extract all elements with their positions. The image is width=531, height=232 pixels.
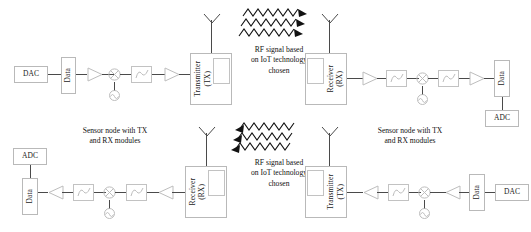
transmitter-label-line1: Transmitter xyxy=(194,61,202,97)
sensor-caption-line2: and RX modules xyxy=(55,136,175,146)
transmitter-label-line1: Transmitter xyxy=(327,174,335,210)
block-dac-top[interactable]: DAC xyxy=(14,66,48,83)
local-oscillator-2[interactable] xyxy=(416,93,429,106)
block-data-bottom-left[interactable]: Data xyxy=(22,178,38,215)
local-oscillator-3[interactable] xyxy=(103,207,116,220)
block-label: Data xyxy=(473,185,481,200)
sensor-caption-line1: Sensor node with TX xyxy=(350,126,470,136)
block-label: ADC xyxy=(494,114,510,122)
rf-wave-top xyxy=(243,6,315,40)
receiver-label-line1: Receiver xyxy=(189,178,197,205)
transmitter-label-line2: (TX) xyxy=(204,71,212,86)
rf-wave-bottom xyxy=(233,120,305,154)
receiver-bottom-sublabel: (RX) xyxy=(197,168,208,216)
transmitter-top-inner xyxy=(213,58,230,84)
block-label: DAC xyxy=(504,188,520,196)
antenna-rx-top xyxy=(321,13,339,25)
wire-dac-to-data-top xyxy=(48,74,61,75)
block-adc-top[interactable]: ADC xyxy=(485,110,519,127)
diagram-canvas: DAC Data xyxy=(0,0,531,232)
antenna-tx-bottom xyxy=(321,126,339,138)
block-label: ADC xyxy=(22,152,38,160)
wire-data-to-amp1 xyxy=(76,74,87,75)
transmitter-bottom-sublabel: (TX) xyxy=(336,168,347,216)
transmitter-bottom-inner xyxy=(307,170,324,196)
wire-amp5-to-receiver-bottom xyxy=(172,192,186,193)
block-data-top-left[interactable]: Data xyxy=(61,57,76,94)
local-oscillator-1[interactable] xyxy=(108,89,121,102)
sensor-node-caption-right: Sensor node with TX and RX modules xyxy=(350,126,470,147)
antenna-rx-bottom xyxy=(198,126,216,138)
block-label: DAC xyxy=(23,70,39,78)
receiver-label-line2: (RX) xyxy=(336,71,344,87)
filter-5[interactable] xyxy=(73,184,94,201)
sensor-node-caption-left: Sensor node with TX and RX modules xyxy=(55,126,175,147)
sensor-caption-line2: and RX modules xyxy=(350,136,470,146)
filter-2[interactable] xyxy=(386,70,407,87)
antenna-mast-tx-bottom xyxy=(329,133,330,166)
block-dac-bottom[interactable]: DAC xyxy=(495,184,529,201)
block-label: Data xyxy=(26,189,34,204)
block-data-bottom-right[interactable]: Data xyxy=(469,174,485,211)
sensor-caption-line1: Sensor node with TX xyxy=(55,126,175,136)
receiver-label-line1: Receiver xyxy=(327,65,335,92)
filter-3[interactable] xyxy=(438,70,459,87)
filter-6[interactable] xyxy=(388,184,409,201)
wire-data-to-adc-top xyxy=(502,97,503,111)
block-label: Data xyxy=(64,68,72,83)
block-data-top-right[interactable]: Data xyxy=(494,60,510,97)
filter-1[interactable] xyxy=(131,66,152,83)
filter-4[interactable] xyxy=(126,184,147,201)
wire-receiver-to-amp3 xyxy=(347,78,363,79)
block-adc-bottom[interactable]: ADC xyxy=(13,148,47,165)
receiver-bottom-inner xyxy=(208,170,225,196)
block-label: Data xyxy=(498,71,506,86)
receiver-top-inner xyxy=(307,58,324,84)
wire-transmitter-bottom-to-amp8 xyxy=(347,192,363,193)
antenna-tx-top xyxy=(203,13,221,25)
receiver-label-line2: (RX) xyxy=(198,184,206,200)
wire-adc-to-data-bottom xyxy=(30,165,31,179)
local-oscillator-4[interactable] xyxy=(418,207,431,220)
transmitter-label-line2: (TX) xyxy=(337,184,345,199)
antenna-mast-rx-top xyxy=(329,20,330,53)
receiver-top-sublabel: (RX) xyxy=(335,55,346,103)
